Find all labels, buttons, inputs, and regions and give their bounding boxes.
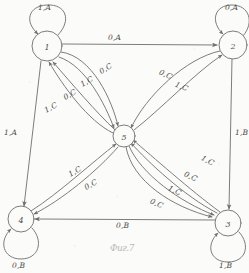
self-loop-4 (4, 228, 39, 259)
node-2-label: 2 (229, 42, 235, 51)
edge-5-to-4 (34, 147, 118, 214)
edge-2-to-5 (131, 51, 220, 128)
self-loop-3 (211, 232, 246, 262)
self-loop-3-label: 1,B (219, 261, 232, 270)
edge-1-to-4-label: 1,A (4, 128, 17, 137)
state-transition-diagram: 1 2 3 4 5 1,A 0,A 1,B 0,B 0,A 1,A 1,B 0,… (0, 0, 249, 273)
node-3-label: 3 (225, 220, 230, 229)
edge-1-to-2-label: 0,A (108, 33, 121, 42)
self-loop-1-label: 1,A (38, 3, 51, 12)
self-loop-2-label: 0,A (225, 3, 238, 12)
edge-2-to-3 (229, 59, 232, 209)
node-4-label: 4 (17, 216, 23, 225)
edge-2-to-3-label: 1,B (235, 128, 248, 137)
edge-5-to-3-b (126, 147, 212, 217)
figure-caption: Фиг.7 (110, 243, 134, 253)
self-loop-4-label: 0,B (12, 261, 25, 270)
diagram-canvas: 1 2 3 4 5 (0, 0, 249, 273)
edge-1-to-2 (62, 44, 217, 45)
edge-3-to-4-label: 0,B (116, 221, 129, 230)
node-5-label: 5 (121, 133, 126, 142)
edge-3-to-4 (35, 219, 215, 220)
node-1-label: 1 (44, 43, 49, 52)
edge-3-to-5-a (133, 140, 220, 212)
edge-4-to-5 (31, 144, 116, 211)
edge-5-to-2 (134, 55, 222, 130)
edge-1-to-4 (24, 61, 41, 206)
